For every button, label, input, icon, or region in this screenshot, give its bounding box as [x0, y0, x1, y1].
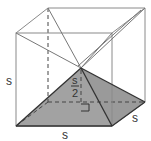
label-left-edge: s	[6, 74, 12, 88]
cube-pyramid-diagram: s s s s 2	[0, 0, 151, 141]
label-right-edge: s	[132, 111, 138, 125]
diagonals	[16, 8, 145, 68]
label-bottom-edge: s	[62, 128, 68, 141]
label-height-denominator: 2	[72, 87, 78, 99]
label-height-numerator: s	[72, 74, 78, 86]
